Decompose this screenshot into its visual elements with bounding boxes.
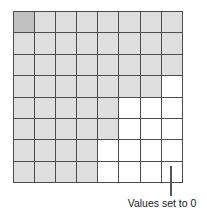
grid-cell [56, 162, 77, 183]
grid-cell [98, 119, 119, 140]
grid-cell [98, 162, 119, 183]
grid-cell [141, 119, 162, 140]
grid-cell [77, 76, 98, 97]
grid-cell [35, 140, 56, 161]
grid-cell [119, 12, 140, 33]
grid-cell [77, 119, 98, 140]
annotation-label: Values set to 0 [118, 197, 206, 210]
grid-cell [56, 12, 77, 33]
grid-cell [14, 55, 35, 76]
grid-cell [162, 140, 183, 161]
grid-cell [35, 76, 56, 97]
grid-cell [162, 76, 183, 97]
grid-cell [141, 33, 162, 54]
grid-cell [98, 98, 119, 119]
grid-cell [14, 98, 35, 119]
grid-cell [35, 33, 56, 54]
grid-cell [77, 162, 98, 183]
grid-cell [98, 76, 119, 97]
grid-cell [119, 119, 140, 140]
grid-cell [56, 55, 77, 76]
grid-cell [119, 33, 140, 54]
cell-grid [13, 11, 183, 183]
grid-cell [141, 162, 162, 183]
grid-cell [77, 55, 98, 76]
grid-cell [14, 140, 35, 161]
grid-cell [77, 140, 98, 161]
grid-cell [77, 12, 98, 33]
grid-cell [119, 55, 140, 76]
grid-cell [35, 55, 56, 76]
grid-cell [14, 12, 35, 33]
grid-cell [98, 33, 119, 54]
grid-cell [14, 76, 35, 97]
grid-cell [35, 162, 56, 183]
grid-cell [14, 162, 35, 183]
grid-cell [35, 119, 56, 140]
grid-cell [77, 98, 98, 119]
grid-cell [14, 33, 35, 54]
grid-cell [56, 140, 77, 161]
grid-cell [119, 76, 140, 97]
grid-cell [119, 98, 140, 119]
grid-cell [162, 98, 183, 119]
grid-cell [98, 55, 119, 76]
grid-cell [162, 119, 183, 140]
grid-cell [14, 119, 35, 140]
grid-cell [141, 55, 162, 76]
grid-cell [77, 33, 98, 54]
grid-cell [35, 98, 56, 119]
grid-cell [98, 140, 119, 161]
grid-cell [162, 12, 183, 33]
grid-cell [98, 12, 119, 33]
grid-cell [141, 76, 162, 97]
grid-cell [162, 55, 183, 76]
grid-cell [119, 140, 140, 161]
grid-cell [56, 76, 77, 97]
grid-diagram: Values set to 0 [0, 0, 207, 215]
annotation-leader-line [170, 166, 172, 196]
grid-cell [119, 162, 140, 183]
grid-cell [162, 33, 183, 54]
grid-cell [162, 162, 183, 183]
grid-cell [141, 140, 162, 161]
grid-cell [56, 119, 77, 140]
grid-cell [56, 98, 77, 119]
grid-cell [141, 98, 162, 119]
grid-cell [56, 33, 77, 54]
grid-cell [35, 12, 56, 33]
grid-cell [141, 12, 162, 33]
